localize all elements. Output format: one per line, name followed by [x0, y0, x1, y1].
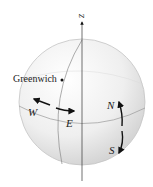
east-label: E — [65, 117, 73, 129]
greenwich-label: Greenwich — [13, 73, 57, 84]
north-label: N — [106, 99, 115, 111]
z-axis-label: z — [74, 13, 86, 19]
south-label: S — [109, 144, 115, 156]
west-label: W — [28, 106, 38, 118]
globe-diagram: z Greenwich W E N S — [0, 0, 153, 187]
greenwich-point — [61, 79, 64, 82]
